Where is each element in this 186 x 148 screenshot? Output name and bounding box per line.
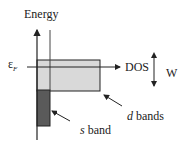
d-bands-text: bands xyxy=(133,109,164,123)
d-band-rect xyxy=(37,60,100,91)
dos-label: DOS xyxy=(125,61,149,73)
energy-label: Energy xyxy=(24,8,58,20)
fermi-label: εF xyxy=(8,58,17,73)
d-bands-pointer xyxy=(104,95,122,106)
s-band-rect xyxy=(37,90,50,126)
fermi-subscript: F xyxy=(13,65,17,73)
s-band-label: s band xyxy=(80,124,111,136)
s-band-pointer xyxy=(52,111,70,121)
width-label: W xyxy=(166,67,177,79)
s-band-text: band xyxy=(85,123,111,137)
d-bands-label: d bands xyxy=(127,110,164,122)
